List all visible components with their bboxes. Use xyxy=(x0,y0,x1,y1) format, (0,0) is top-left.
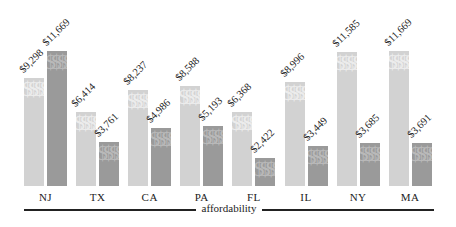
bar-il-dark: $$$$$$$$$$$$$$$$$$$$$$$$$$$$$$$$$$$$$$$$… xyxy=(308,146,328,186)
bar-ma-light: $$$$$$$$$$$$$$$$$$$$$$$$$$$$$$$$$$$$$$$$… xyxy=(389,51,409,186)
bar-tx-light: $$$$$$$$$$$$$$$$$$$$$$$$$$$$$$$$$$$$$$$$… xyxy=(76,112,96,186)
dollar-pattern-icon: $$$$$$$$$$$$$$$$$$$$$$$$$$$$$$$$$$$$$$$$… xyxy=(389,51,409,186)
dollar-pattern-icon: $$$$$$$$$$$$$$$$$$$$$$$$$$$$$$$$$$$$$$$$… xyxy=(337,52,357,186)
bar-fl-dark: $$$$$$$$$$$$$$$$$$$$$$$$$$$$$$$$$$$$$$$$… xyxy=(255,158,275,186)
value-label: $6,368 xyxy=(226,81,254,109)
bar-pa-light: $$$$$$$$$$$$$$$$$$$$$$$$$$$$$$$$$$$$$$$$… xyxy=(180,86,200,186)
value-label: $4,986 xyxy=(144,97,172,125)
value-label: $3,685 xyxy=(353,112,381,140)
affordability-chart: $$$$$$$$$$$$$$$$$$$$$$$$$$$$$$$$$$$$$$$$… xyxy=(0,0,456,227)
dollar-pattern-icon: $$$$$$$$$$$$$$$$$$$$$$$$$$$$$$$$$$$$$$$$… xyxy=(180,86,200,186)
dollar-pattern-icon: $$$$$$$$$$$$$$$$$$$$$$$$$$$$$$$$$$$$$$$$… xyxy=(255,158,275,186)
value-label: $8,588 xyxy=(174,55,202,83)
dollar-pattern-icon: $$$$$$$$$$$$$$$$$$$$$$$$$$$$$$$$$$$$$$$$… xyxy=(47,51,67,186)
value-label: $8,237 xyxy=(121,59,149,87)
value-label: $11,585 xyxy=(330,17,362,49)
bar-ca-dark: $$$$$$$$$$$$$$$$$$$$$$$$$$$$$$$$$$$$$$$$… xyxy=(151,128,171,186)
category-label-il: IL xyxy=(286,191,326,203)
value-label: $9,298 xyxy=(17,47,45,75)
value-label: $2,422 xyxy=(249,127,277,155)
dollar-pattern-icon: $$$$$$$$$$$$$$$$$$$$$$$$$$$$$$$$$$$$$$$$… xyxy=(360,143,380,186)
category-label-nj: NJ xyxy=(26,191,66,203)
dollar-pattern-icon: $$$$$$$$$$$$$$$$$$$$$$$$$$$$$$$$$$$$$$$$… xyxy=(412,143,432,186)
dollar-pattern-icon: $$$$$$$$$$$$$$$$$$$$$$$$$$$$$$$$$$$$$$$$… xyxy=(24,78,44,186)
x-axis-line-left xyxy=(24,209,196,211)
bar-ma-dark: $$$$$$$$$$$$$$$$$$$$$$$$$$$$$$$$$$$$$$$$… xyxy=(412,143,432,186)
dollar-pattern-icon: $$$$$$$$$$$$$$$$$$$$$$$$$$$$$$$$$$$$$$$$… xyxy=(76,112,96,186)
dollar-pattern-icon: $$$$$$$$$$$$$$$$$$$$$$$$$$$$$$$$$$$$$$$$… xyxy=(128,90,148,186)
bar-ny-dark: $$$$$$$$$$$$$$$$$$$$$$$$$$$$$$$$$$$$$$$$… xyxy=(360,143,380,186)
x-axis-line-right xyxy=(262,209,434,211)
bar-nj-light: $$$$$$$$$$$$$$$$$$$$$$$$$$$$$$$$$$$$$$$$… xyxy=(24,78,44,186)
value-label: $6,414 xyxy=(69,81,97,109)
value-label: $3,449 xyxy=(301,115,329,143)
x-axis-label: affordability xyxy=(196,202,262,214)
dollar-pattern-icon: $$$$$$$$$$$$$$$$$$$$$$$$$$$$$$$$$$$$$$$$… xyxy=(308,146,328,186)
category-label-tx: TX xyxy=(78,191,118,203)
value-label: $11,669 xyxy=(382,16,414,48)
value-label: $3,761 xyxy=(92,111,120,139)
dollar-pattern-icon: $$$$$$$$$$$$$$$$$$$$$$$$$$$$$$$$$$$$$$$$… xyxy=(151,128,171,186)
category-label-ca: CA xyxy=(130,191,170,203)
dollar-pattern-icon: $$$$$$$$$$$$$$$$$$$$$$$$$$$$$$$$$$$$$$$$… xyxy=(203,126,223,186)
category-label-ny: NY xyxy=(338,191,378,203)
dollar-pattern-icon: $$$$$$$$$$$$$$$$$$$$$$$$$$$$$$$$$$$$$$$$… xyxy=(99,142,119,186)
bar-pa-dark: $$$$$$$$$$$$$$$$$$$$$$$$$$$$$$$$$$$$$$$$… xyxy=(203,126,223,186)
value-label: $5,193 xyxy=(197,95,225,123)
bar-nj-dark: $$$$$$$$$$$$$$$$$$$$$$$$$$$$$$$$$$$$$$$$… xyxy=(47,51,67,186)
bar-ny-light: $$$$$$$$$$$$$$$$$$$$$$$$$$$$$$$$$$$$$$$$… xyxy=(337,52,357,186)
category-label-ma: MA xyxy=(390,191,430,203)
value-label: $3,691 xyxy=(405,112,433,140)
value-label: $11,669 xyxy=(40,16,72,48)
bar-tx-dark: $$$$$$$$$$$$$$$$$$$$$$$$$$$$$$$$$$$$$$$$… xyxy=(99,142,119,186)
value-label: $8,996 xyxy=(278,51,306,79)
bar-ca-light: $$$$$$$$$$$$$$$$$$$$$$$$$$$$$$$$$$$$$$$$… xyxy=(128,90,148,186)
